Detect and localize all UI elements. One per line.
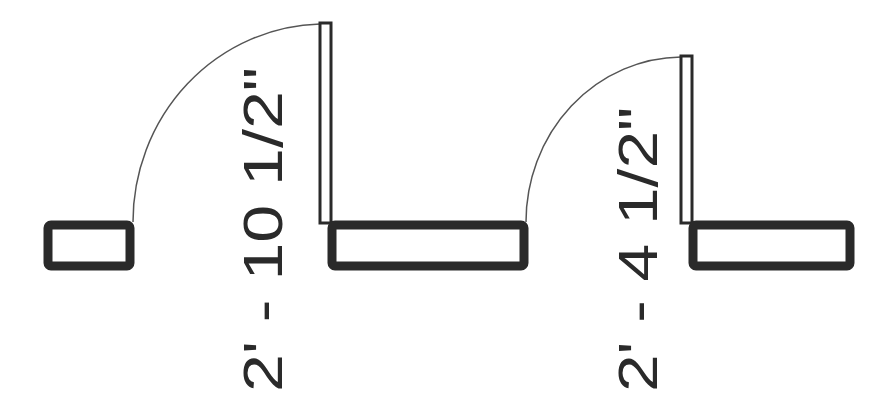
door-1-dimension-label: 2' - 10 1/2" [232,67,294,392]
wall-right [693,225,850,266]
door-1-leaf [320,23,331,223]
door-2-dimension-label: 2' - 4 1/2" [607,107,669,392]
door-plan-drawing: 2' - 10 1/2" 2' - 4 1/2" [0,0,891,411]
wall-middle [332,225,524,266]
wall-left-stub [48,225,130,266]
door-2-leaf [681,56,692,223]
